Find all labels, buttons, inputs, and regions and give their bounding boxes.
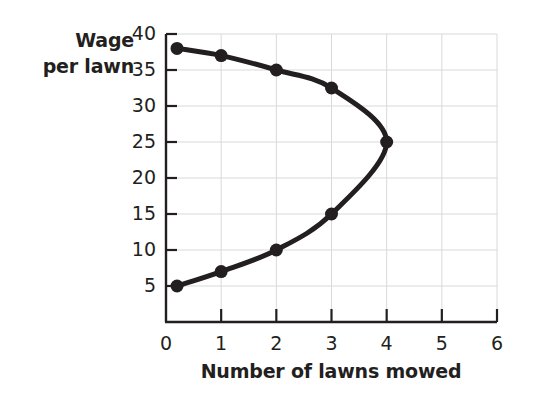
data-markers (171, 42, 394, 293)
data-point (380, 136, 393, 149)
x-tick-label: 4 (372, 334, 402, 353)
data-point (270, 244, 283, 257)
data-point (215, 49, 228, 62)
data-point (215, 265, 228, 278)
x-tick-label: 1 (206, 334, 236, 353)
x-tick-label: 5 (427, 334, 457, 353)
x-tick-label: 2 (261, 334, 291, 353)
x-tick-label: 6 (482, 334, 512, 353)
y-tick-label: 5 (110, 276, 156, 295)
gridlines (166, 34, 497, 322)
y-tick-label: 40 (110, 24, 156, 43)
y-tick-label: 20 (110, 168, 156, 187)
data-point (325, 208, 338, 221)
chart-figure: Wage per lawn Number of lawns mowed 5101… (0, 0, 535, 397)
data-point (171, 42, 184, 55)
x-tick-label: 3 (317, 334, 347, 353)
data-point (270, 64, 283, 77)
data-point (325, 82, 338, 95)
y-tick-label: 35 (110, 60, 156, 79)
data-point (171, 280, 184, 293)
y-tick-label: 25 (110, 132, 156, 151)
y-tick-label: 10 (110, 240, 156, 259)
y-tick-label: 30 (110, 96, 156, 115)
y-tick-label: 15 (110, 204, 156, 223)
x-tick-label: 0 (151, 334, 181, 353)
